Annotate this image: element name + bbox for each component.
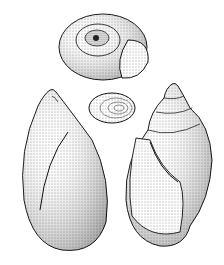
illustration xyxy=(0,0,224,265)
shell-apertural-view-right xyxy=(126,83,212,246)
shell-top-view xyxy=(59,14,148,80)
operculum xyxy=(89,93,135,123)
